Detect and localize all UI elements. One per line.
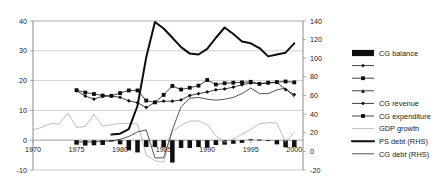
chart-plot: -10010203040-200204060801001201401970197… bbox=[0, 0, 434, 193]
x-tick-label: 1980 bbox=[112, 145, 128, 154]
bar-cg-balance bbox=[179, 140, 184, 148]
series-marker-diamond bbox=[197, 92, 201, 96]
series-marker-square bbox=[83, 91, 87, 95]
series-marker-diamond bbox=[127, 99, 131, 103]
series-marker-square bbox=[144, 99, 148, 103]
chart-container: -10010203040-200204060801001201401970197… bbox=[0, 0, 434, 193]
series-marker-square bbox=[92, 92, 96, 96]
series-marker-square bbox=[153, 100, 157, 104]
bar-cg-balance bbox=[205, 140, 210, 147]
y-tick-label-right: 0 bbox=[310, 147, 314, 156]
y-tick-label-left: 0 bbox=[23, 136, 27, 145]
series-marker-square bbox=[162, 93, 166, 97]
legend-marker-diamond bbox=[361, 102, 365, 106]
x-tick-label: 1970 bbox=[25, 145, 41, 154]
bar-cg-balance bbox=[153, 140, 158, 147]
series-marker-square bbox=[188, 86, 192, 90]
bar-cg-balance bbox=[196, 140, 201, 147]
series-marker-square bbox=[118, 91, 122, 95]
y-tick-label-left: 40 bbox=[19, 17, 27, 26]
series-marker-square bbox=[231, 81, 235, 85]
legend-label: CG revenue bbox=[379, 99, 419, 108]
legend-marker-diamond bbox=[361, 64, 365, 68]
series-line-ps-debt-rhs bbox=[111, 22, 294, 135]
x-tick-label: 1995 bbox=[243, 145, 259, 154]
series-marker-diamond bbox=[223, 87, 227, 91]
legend-label: PS debt (RHS) bbox=[379, 137, 428, 146]
series-marker-square bbox=[205, 78, 209, 82]
y-tick-label-left: 10 bbox=[19, 106, 27, 115]
y-tick-label-left: 30 bbox=[19, 46, 27, 55]
bar-cg-balance bbox=[135, 140, 140, 152]
y-tick-label-right: -20 bbox=[310, 166, 320, 175]
series-marker-square bbox=[275, 80, 279, 84]
series-marker-square bbox=[170, 84, 174, 88]
bar-cg-balance bbox=[240, 140, 245, 143]
series-marker-diamond bbox=[205, 90, 209, 94]
bar-cg-balance bbox=[92, 140, 97, 145]
bar-cg-balance bbox=[257, 140, 262, 141]
series-marker-square bbox=[127, 89, 131, 93]
bar-cg-balance bbox=[231, 140, 236, 144]
series-marker-square bbox=[258, 82, 262, 86]
legend-label: CG expenditure bbox=[379, 112, 431, 121]
series-marker-square bbox=[197, 84, 201, 88]
series-marker-diamond bbox=[188, 94, 192, 98]
series-line-cg-expenditure bbox=[77, 80, 295, 102]
bar-cg-balance bbox=[170, 140, 175, 162]
bar-cg-balance bbox=[161, 140, 166, 147]
series-marker-square bbox=[101, 94, 105, 98]
series-marker-diamond bbox=[92, 97, 96, 101]
bar-cg-balance bbox=[214, 140, 219, 145]
legend-marker-square bbox=[361, 114, 365, 118]
series-marker-square bbox=[179, 88, 183, 92]
series-marker-diamond bbox=[144, 106, 148, 110]
series-marker-square bbox=[75, 88, 79, 92]
series-marker-diamond bbox=[162, 99, 166, 103]
y-tick-label-right: 120 bbox=[310, 35, 322, 44]
bar-cg-balance bbox=[292, 140, 297, 147]
legend-label: GDP growth bbox=[379, 124, 419, 133]
bar-cg-balance bbox=[118, 140, 123, 144]
series-line-cg-revenue bbox=[77, 82, 295, 107]
y-tick-label-right: 40 bbox=[310, 110, 318, 119]
series-marker-diamond bbox=[231, 85, 235, 89]
y-tick-label-right: 140 bbox=[310, 17, 322, 26]
series-marker-diamond bbox=[214, 88, 218, 92]
series-marker-square bbox=[292, 80, 296, 84]
series-marker-square bbox=[240, 80, 244, 84]
bar-cg-balance bbox=[275, 140, 280, 144]
y-tick-label-right: 100 bbox=[310, 54, 322, 63]
series-marker-square bbox=[249, 80, 253, 84]
legend-label: CG debt (RHS) bbox=[379, 150, 429, 159]
y-tick-label-left: 20 bbox=[19, 76, 27, 85]
bar-cg-balance bbox=[83, 140, 88, 145]
series-marker-diamond bbox=[170, 99, 174, 103]
bar-cg-balance bbox=[127, 140, 132, 150]
bar-cg-balance bbox=[266, 140, 271, 141]
series-marker-square bbox=[109, 94, 113, 98]
series-marker-square bbox=[284, 80, 288, 84]
series-marker-square bbox=[136, 89, 140, 93]
y-tick-label-left: -10 bbox=[17, 166, 27, 175]
x-tick-label: 1975 bbox=[69, 145, 85, 154]
legend-swatch-bar bbox=[352, 50, 374, 56]
legend-marker-square bbox=[361, 76, 365, 80]
bar-cg-balance bbox=[188, 140, 193, 148]
series-line-gdp-growth bbox=[33, 113, 294, 162]
series-marker-diamond bbox=[179, 98, 183, 102]
bar-cg-balance bbox=[248, 139, 253, 140]
bar-cg-balance bbox=[144, 140, 149, 147]
series-marker-diamond bbox=[118, 95, 122, 99]
y-tick-label-right: 20 bbox=[310, 128, 318, 137]
series-marker-diamond bbox=[83, 94, 87, 98]
legend-label: CG balance bbox=[379, 49, 418, 58]
series-marker-square bbox=[266, 81, 270, 85]
y-tick-label-right: 60 bbox=[310, 91, 318, 100]
series-marker-square bbox=[214, 83, 218, 87]
y-tick-label-right: 80 bbox=[310, 72, 318, 81]
series-marker-square bbox=[223, 81, 227, 85]
